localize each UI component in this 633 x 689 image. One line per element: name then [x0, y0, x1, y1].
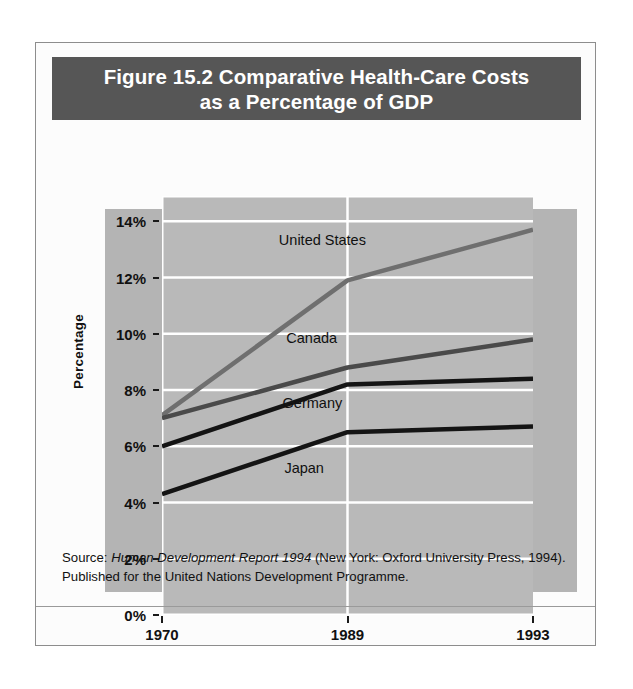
y-axis-label-band — [105, 209, 165, 592]
x-tick-mark — [161, 616, 163, 623]
y-tick-mark — [153, 445, 159, 447]
x-tick-label: 1989 — [318, 627, 378, 642]
source-prefix: Source: — [62, 550, 111, 565]
figure-title-line-1: Figure 15.2 Comparative Health-Care Cost… — [104, 64, 530, 89]
y-tick-mark — [153, 614, 159, 616]
y-axis-title: Percentage — [71, 292, 86, 412]
source-note: Source: Human Development Report 1994 (N… — [62, 549, 574, 586]
figure-title-bar: Figure 15.2 Comparative Health-Care Cost… — [52, 57, 581, 120]
y-tick-mark — [153, 389, 159, 391]
y-tick-label: 0% — [94, 608, 146, 623]
series-label-canada: Canada — [286, 330, 337, 346]
series-label-united-states: United States — [279, 232, 366, 248]
y-tick-mark — [153, 502, 159, 504]
x-tick-mark — [347, 616, 349, 623]
y-tick-label: 10% — [94, 327, 146, 342]
y-tick-mark — [153, 220, 159, 222]
x-tick-mark — [532, 616, 534, 623]
series-label-germany: Germany — [283, 395, 343, 411]
x-tick-label: 1970 — [132, 627, 192, 642]
chart-region: Percentage 14%12%10%8%6%4%2%0% United St… — [36, 139, 595, 595]
y-tick-label: 4% — [94, 496, 146, 511]
y-tick-label: 12% — [94, 271, 146, 286]
figure-frame: Figure 15.2 Comparative Health-Care Cost… — [35, 42, 596, 646]
page-title: Figure 15.2 Comparative Health-Care Cost… — [104, 64, 530, 114]
right-margin-band — [533, 209, 577, 592]
source-title: Human Development Report 1994 — [111, 550, 311, 565]
y-tick-label: 14% — [94, 214, 146, 229]
y-tick-mark — [153, 333, 159, 335]
y-tick-label: 8% — [94, 383, 146, 398]
series-label-japan: Japan — [284, 460, 324, 476]
y-tick-label: 6% — [94, 439, 146, 454]
x-tick-label: 1993 — [503, 627, 563, 642]
figure-title-line-2: as a Percentage of GDP — [104, 89, 530, 114]
y-tick-mark — [153, 277, 159, 279]
source-divider — [36, 606, 595, 607]
